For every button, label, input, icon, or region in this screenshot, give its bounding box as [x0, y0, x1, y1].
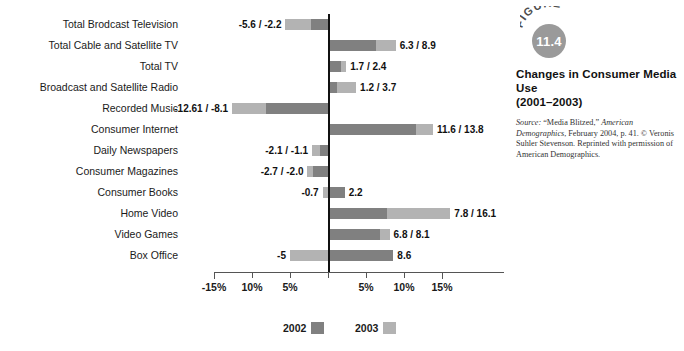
axis-tick: [328, 272, 329, 278]
chart-row: Total Cable and Satellite TV6.3 / 8.9: [0, 35, 500, 56]
row-plot: -5.6 / -2.2: [182, 14, 500, 35]
axis-tick: [290, 272, 291, 278]
bar-2002-segment: [328, 40, 376, 51]
x-axis: -15%10%5%5%10%15%: [0, 272, 500, 312]
category-label: Total Brodcast Television: [0, 14, 178, 35]
figure-title: Changes in Consumer Media Use (2001–2003…: [516, 67, 678, 109]
bar-2002-segment: [328, 229, 380, 240]
legend-item-2003: 2003: [355, 322, 396, 334]
row-plot: -12.61 / -8.1: [182, 98, 500, 119]
category-label: Consumer Magazines: [0, 161, 178, 182]
value-label-right: 1.7 / 2.4: [350, 56, 386, 77]
figure-caption-panel: FIGURE 11.4 Changes in Consumer Media Us…: [516, 6, 678, 160]
axis-tick-label: 15%: [431, 281, 452, 293]
row-plot: 6.3 / 8.9: [182, 35, 500, 56]
bar-2002-segment: [311, 19, 328, 30]
category-label: Consumer Internet: [0, 119, 178, 140]
chart-row: Recorded Music-12.61 / -8.1: [0, 98, 500, 119]
legend-label: 2002: [283, 322, 306, 334]
value-label-right: 6.3 / 8.9: [400, 35, 436, 56]
bar-2002-segment: [320, 145, 328, 156]
axis-tick-label: 5%: [358, 281, 373, 293]
chart-row: Consumer Internet11.6 / 13.8: [0, 119, 500, 140]
axis-tick-label: 10%: [393, 281, 414, 293]
category-label: Video Games: [0, 224, 178, 245]
axis-tick: [442, 272, 443, 279]
figure-badge: FIGURE 11.4: [520, 6, 582, 58]
zero-axis-line: [328, 14, 330, 273]
category-label: Recorded Music: [0, 98, 178, 119]
chart-rows: Total Brodcast Television-5.6 / -2.2Tota…: [0, 14, 500, 266]
legend-label: 2003: [355, 322, 378, 334]
chart-row: Broadcast and Satellite Radio1.2 / 3.7: [0, 77, 500, 98]
value-label-right: 8.6: [397, 245, 411, 266]
value-label-left: -5.6 / -2.2: [239, 14, 282, 35]
axis-tick: [252, 272, 253, 278]
chart-row: Total TV1.7 / 2.4: [0, 56, 500, 77]
chart-row: Home Video7.8 / 16.1: [0, 203, 500, 224]
chart-row: Total Brodcast Television-5.6 / -2.2: [0, 14, 500, 35]
axis-tick: [366, 272, 367, 278]
bar-chart: Total Brodcast Television-5.6 / -2.2Tota…: [0, 0, 500, 351]
source-prefix: Source:: [516, 118, 541, 127]
chart-row: Consumer Books-0.72.2: [0, 182, 500, 203]
row-plot: 7.8 / 16.1: [182, 203, 500, 224]
value-label-left: -5: [277, 245, 286, 266]
category-label: Box Office: [0, 245, 178, 266]
legend-item-2002: 2002: [283, 322, 324, 334]
row-plot: -2.1 / -1.1: [182, 140, 500, 161]
category-label: Broadcast and Satellite Radio: [0, 77, 178, 98]
bar-2002-segment: [328, 124, 416, 135]
x-axis-line: [214, 272, 504, 273]
value-label-right: 6.8 / 8.1: [394, 224, 430, 245]
figure-source: Source: “Media Blitzed,” American Demogr…: [516, 118, 678, 160]
value-label-left: -0.7: [301, 182, 318, 203]
row-plot: 6.8 / 8.1: [182, 224, 500, 245]
chart-row: Video Games6.8 / 8.1: [0, 224, 500, 245]
row-plot: -2.7 / -2.0: [182, 161, 500, 182]
axis-tick: [214, 272, 215, 279]
row-plot: -0.72.2: [182, 182, 500, 203]
row-plot: -58.6: [182, 245, 500, 266]
value-label-left: -12.61 / -8.1: [174, 98, 228, 119]
axis-tick-label: -15%: [202, 281, 227, 293]
chart-legend: 20022003: [0, 322, 500, 342]
axis-tick-label: 5%: [282, 281, 297, 293]
row-plot: 11.6 / 13.8: [182, 119, 500, 140]
category-label: Consumer Books: [0, 182, 178, 203]
figure-title-line1: Changes in Consumer Media Use: [516, 67, 678, 95]
bar-2002-segment: [313, 166, 328, 177]
value-label-right: 2.2: [349, 182, 363, 203]
row-plot: 1.7 / 2.4: [182, 56, 500, 77]
category-label: Total TV: [0, 56, 178, 77]
legend-swatch: [383, 322, 396, 334]
chart-row: Box Office-58.6: [0, 245, 500, 266]
value-label-left: -2.7 / -2.0: [261, 161, 304, 182]
axis-tick-label: 10%: [241, 281, 262, 293]
bar-2002-segment: [328, 250, 393, 261]
bar-2002-segment: [328, 187, 345, 198]
figure-page: Total Brodcast Television-5.6 / -2.2Tota…: [0, 0, 684, 351]
bar-2002-segment: [328, 208, 387, 219]
row-plot: 1.2 / 3.7: [182, 77, 500, 98]
source-text-1: “Media Blitzed,”: [541, 118, 601, 127]
bar-2002-segment: [328, 61, 341, 72]
figure-number: 11.4: [532, 24, 566, 58]
bar-2003-segment: [290, 250, 328, 261]
chart-row: Consumer Magazines-2.7 / -2.0: [0, 161, 500, 182]
value-label-right: 7.8 / 16.1: [454, 203, 496, 224]
value-label-right: 1.2 / 3.7: [360, 77, 396, 98]
value-label-right: 11.6 / 13.8: [437, 119, 484, 140]
chart-row: Daily Newspapers-2.1 / -1.1: [0, 140, 500, 161]
figure-title-line2: (2001–2003): [516, 95, 678, 109]
category-label: Total Cable and Satellite TV: [0, 35, 178, 56]
value-label-left: -2.1 / -1.1: [265, 140, 308, 161]
legend-swatch: [311, 322, 324, 334]
category-label: Home Video: [0, 203, 178, 224]
axis-tick: [404, 272, 405, 278]
bar-2002-segment: [266, 103, 328, 114]
category-label: Daily Newspapers: [0, 140, 178, 161]
